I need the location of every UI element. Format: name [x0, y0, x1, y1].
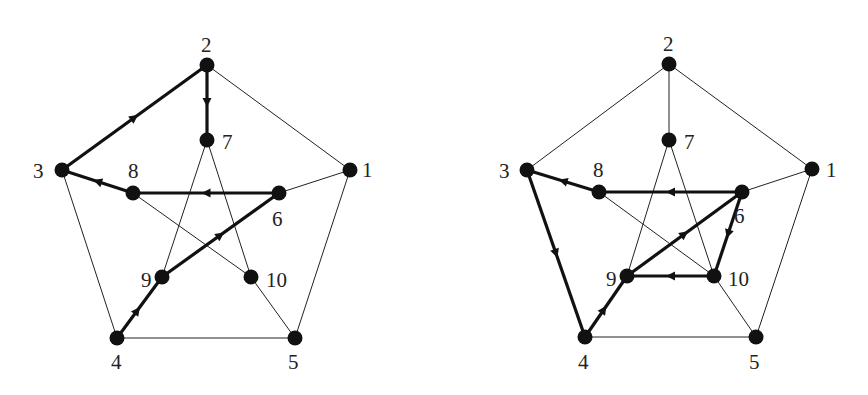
- vertex-8: [592, 185, 607, 200]
- vertex-2: [200, 58, 215, 73]
- edge-10-7: [669, 140, 714, 276]
- vertex-2: [662, 57, 677, 72]
- vertex-10: [244, 270, 259, 285]
- vertex-9: [155, 270, 170, 285]
- vertex-7: [662, 133, 677, 148]
- edge-5-1: [756, 169, 812, 337]
- arrow-icon: [666, 272, 675, 281]
- vertex-label-9: 9: [606, 267, 617, 291]
- vertex-label-5: 5: [288, 350, 299, 374]
- arrow-icon: [550, 248, 559, 258]
- vertex-label-3: 3: [33, 159, 44, 183]
- arrow-icon: [202, 189, 211, 198]
- arrow-icon: [725, 228, 734, 238]
- vertex-label-2: 2: [201, 33, 212, 57]
- vertex-3: [520, 163, 535, 178]
- edge-3-4: [62, 170, 117, 338]
- vertex-9: [620, 269, 635, 284]
- edge-2-3: [527, 64, 669, 170]
- vertex-3: [55, 163, 70, 178]
- vertex-label-1: 1: [362, 158, 373, 182]
- vertex-label-2: 2: [663, 32, 674, 56]
- vertex-label-10: 10: [266, 268, 287, 292]
- arrow-icon: [666, 188, 675, 197]
- vertex-label-6: 6: [272, 207, 283, 231]
- vertex-label-8: 8: [128, 159, 139, 183]
- arrow-icon: [93, 179, 103, 188]
- edge-5-1: [295, 170, 350, 338]
- vertex-label-8: 8: [593, 158, 604, 182]
- edge-1-6: [279, 170, 350, 193]
- edge-1-6: [742, 169, 812, 192]
- edge-7-9: [162, 140, 207, 277]
- vertex-5: [749, 330, 764, 345]
- vertex-label-6: 6: [734, 204, 745, 228]
- vertex-label-3: 3: [499, 159, 510, 183]
- vertex-1: [805, 162, 820, 177]
- vertex-label-9: 9: [141, 268, 152, 292]
- arrow-icon: [203, 98, 212, 107]
- vertex-label-1: 1: [826, 158, 837, 182]
- graph-right: 12345678910: [499, 32, 837, 374]
- vertex-6: [735, 185, 750, 200]
- vertex-label-4: 4: [578, 350, 589, 374]
- vertex-label-7: 7: [684, 130, 695, 154]
- vertex-5: [288, 331, 303, 346]
- vertex-label-4: 4: [111, 350, 122, 374]
- vertex-label-10: 10: [728, 267, 749, 291]
- vertex-4: [110, 331, 125, 346]
- graph-left: 12345678910: [33, 33, 373, 374]
- vertex-4: [578, 330, 593, 345]
- edge-8-10: [599, 192, 714, 276]
- vertex-8: [126, 186, 141, 201]
- vertex-1: [343, 163, 358, 178]
- vertex-7: [200, 133, 215, 148]
- edge-1-2: [207, 65, 350, 170]
- vertex-10: [707, 269, 722, 284]
- vertex-6: [272, 186, 287, 201]
- edge-8-10: [133, 193, 251, 277]
- edge-10-7: [207, 140, 251, 277]
- petersen-graph-canvas: 12345678910 12345678910: [0, 0, 868, 395]
- edge-7-9: [627, 140, 669, 276]
- vertex-label-5: 5: [749, 350, 760, 374]
- vertex-label-7: 7: [222, 130, 233, 154]
